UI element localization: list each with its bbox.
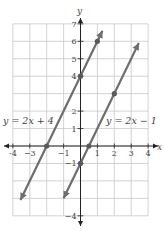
svg-text:1: 1: [95, 149, 100, 158]
svg-text:−4: −4: [65, 212, 77, 221]
x-axis-label: x: [157, 142, 162, 152]
svg-text:−3: −3: [24, 149, 36, 158]
svg-text:2: 2: [71, 107, 76, 116]
svg-text:6: 6: [71, 37, 76, 46]
svg-text:-4: -4: [9, 149, 17, 158]
coordinate-plane: -4−3−11234765421−1−4 y = 2x + 4 y = 2x −…: [0, 0, 164, 231]
equation-label-2: y = 2x − 1: [105, 115, 157, 126]
svg-text:1: 1: [71, 125, 76, 134]
svg-text:3: 3: [129, 149, 134, 158]
svg-text:4: 4: [71, 72, 76, 81]
svg-text:−1: −1: [58, 149, 70, 158]
svg-text:−1: −1: [65, 159, 77, 168]
svg-text:7: 7: [71, 20, 76, 29]
equation-label-1: y = 2x + 4: [2, 115, 54, 126]
svg-text:5: 5: [71, 55, 76, 64]
svg-text:2: 2: [112, 149, 117, 158]
y-axis-label: y: [76, 6, 83, 16]
svg-text:4: 4: [146, 149, 151, 158]
